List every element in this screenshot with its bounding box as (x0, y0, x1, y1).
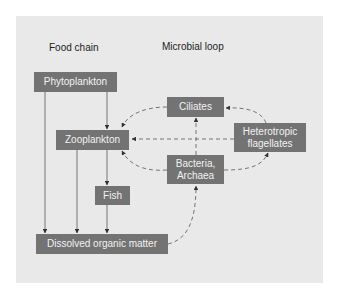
node-dissolved-organic-matter: Dissolved organic matter (36, 234, 168, 254)
node-ciliates: Ciliates (167, 97, 224, 117)
node-label-line1: Heterotropic (243, 126, 297, 138)
heading-food-chain: Food chain (49, 42, 98, 53)
heading-microbial-loop: Microbial loop (162, 41, 224, 52)
arrow-dom-bacteria (168, 186, 196, 244)
node-label-line1: Bacteria, (176, 158, 215, 170)
node-label: Zooplankton (65, 134, 120, 146)
node-bacteria-archaea: Bacteria, Archaea (167, 155, 224, 184)
node-phytoplankton: Phytoplankton (34, 72, 117, 92)
node-label: Ciliates (179, 101, 212, 113)
arrow-ciliates-zoo (122, 107, 167, 127)
node-zooplankton: Zooplankton (56, 130, 129, 150)
node-label: Dissolved organic matter (47, 238, 157, 250)
node-heterotropic-flagellates: Heterotropic flagellates (234, 123, 306, 152)
arrow-bacteria-flagellates (224, 153, 268, 170)
node-label: Phytoplankton (44, 76, 107, 88)
node-fish: Fish (95, 186, 130, 205)
arrow-bacteria-zoo (122, 151, 167, 170)
node-label: Fish (103, 190, 122, 202)
arrow-flagellates-ciliates (226, 108, 266, 123)
node-label-line2: flagellates (247, 138, 292, 150)
node-label-line2: Archaea (177, 170, 214, 182)
